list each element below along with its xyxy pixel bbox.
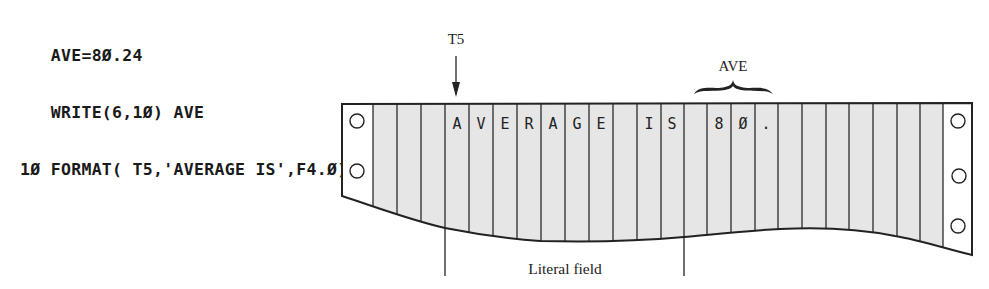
variable-label: AVE xyxy=(719,58,748,74)
literal-field-label: Literal field xyxy=(528,260,602,277)
print-cell: R xyxy=(524,115,534,133)
tab-label: T5 xyxy=(448,31,465,47)
down-arrow-icon xyxy=(452,82,460,97)
print-cell: I xyxy=(644,115,653,133)
print-cell: 8 xyxy=(714,115,723,133)
print-cell: Ø xyxy=(738,115,747,133)
sprocket-hole-icon xyxy=(951,219,965,233)
sprocket-hole-icon xyxy=(350,164,364,178)
print-cell: . xyxy=(761,115,770,133)
print-cell: A xyxy=(452,115,461,133)
print-cell: V xyxy=(476,115,485,133)
sprocket-hole-icon xyxy=(952,169,966,183)
print-cell: S xyxy=(667,115,676,133)
printer-paper-diagram: T5 AVE xyxy=(0,0,989,289)
print-cell: A xyxy=(548,115,557,133)
variable-field-brace: AVE xyxy=(694,58,773,94)
printer-paper: A V E R A G E I S 8 Ø . xyxy=(342,100,974,260)
print-cell: E xyxy=(500,115,509,133)
sprocket-hole-icon xyxy=(350,114,364,128)
print-cell: E xyxy=(596,115,605,133)
curly-brace-icon xyxy=(694,80,773,94)
tab-position-marker: T5 xyxy=(448,31,465,97)
print-cell: G xyxy=(572,115,581,133)
sprocket-hole-icon xyxy=(951,114,965,128)
